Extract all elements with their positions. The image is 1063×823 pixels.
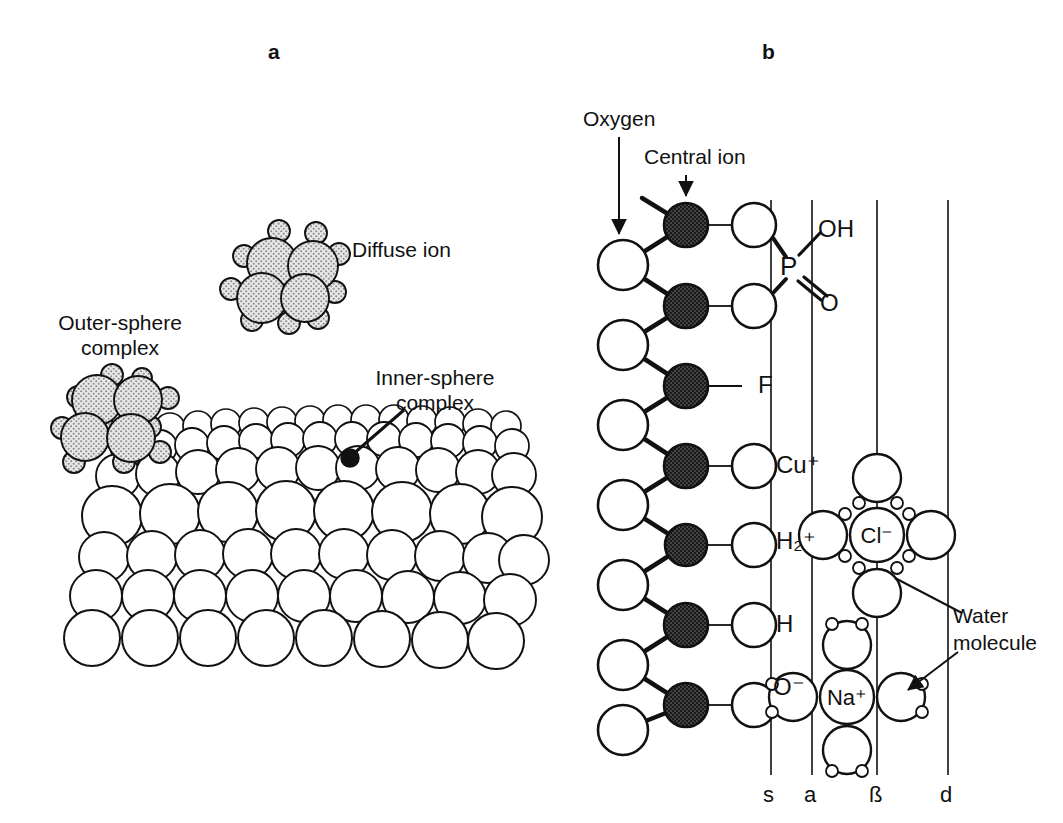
- chain-oxygen-atoms: [598, 240, 648, 755]
- chloride-hydration-shell: Cl⁻: [799, 454, 955, 617]
- label-water-molecule: Water molecule: [953, 602, 1037, 656]
- label-oxygen: Oxygen: [583, 106, 655, 131]
- species-label-copper: Cu⁺: [776, 452, 820, 477]
- species-label-hydrogen: H: [776, 611, 793, 636]
- axis-tick-label-s: s: [763, 782, 774, 807]
- chain-central-ions: [664, 203, 708, 727]
- ligand-oxygen-atoms: [732, 203, 776, 727]
- water-molecule-leader-upper: [895, 578, 962, 613]
- axis-tick-label-a: a: [804, 782, 816, 807]
- water-molecule-bottom: [853, 569, 901, 617]
- label-inner-sphere-complex: Inner-sphere complex: [350, 365, 520, 415]
- figure-root: a b: [0, 0, 1063, 823]
- sodium-ion-label: Na⁺: [827, 685, 867, 710]
- panel-a-drawing: [51, 220, 549, 669]
- chloride-ion-label: Cl⁻: [861, 523, 894, 548]
- axis-tick-label-beta: ß: [869, 782, 882, 807]
- axis-tick-label-d: d: [940, 782, 952, 807]
- species-label-dihydrogen: H₂⁺: [776, 528, 816, 553]
- label-central-ion: Central ion: [644, 144, 746, 169]
- phosphorus-atom-label: P: [780, 254, 797, 279]
- phosphoryl-oxygen-label: O: [820, 290, 839, 315]
- water-molecule-top: [853, 454, 901, 502]
- label-diffuse-ion: Diffuse ion: [352, 237, 451, 262]
- species-label-fluoride: F: [758, 372, 773, 397]
- hydroxyl-label: OH: [818, 216, 854, 241]
- water-molecule-arrow-lower: [908, 652, 958, 690]
- figure-canvas: Cl⁻ Na⁺: [0, 0, 1063, 823]
- species-label-oxide-anion: O⁻: [773, 674, 805, 699]
- label-outer-sphere-complex: Outer-sphere complex: [22, 310, 218, 360]
- diffuse-ion-cluster: [220, 220, 350, 334]
